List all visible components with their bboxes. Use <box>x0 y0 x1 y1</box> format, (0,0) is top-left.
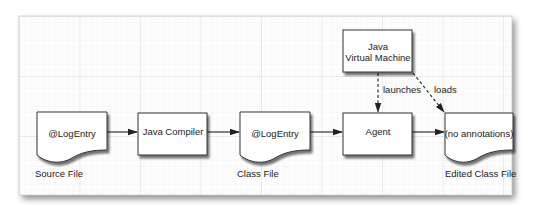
edited-class-file-text: (no annotations) <box>445 128 514 139</box>
class-file-caption: Class File <box>237 168 279 179</box>
node-edited-class-file: (no annotations) Edited Class File <box>445 113 517 179</box>
edited-class-file-caption: Edited Class File <box>445 168 516 179</box>
class-file-text: @LogEntry <box>251 128 299 139</box>
diagram-canvas: launches loads @LogEntry Source File Jav… <box>0 0 554 207</box>
edge-label-launches: launches <box>383 84 421 95</box>
edge-label-loads: loads <box>434 84 457 95</box>
source-file-caption: Source File <box>35 168 83 179</box>
java-compiler-text: Java Compiler <box>143 126 204 137</box>
agent-text: Agent <box>366 126 391 137</box>
jvm-text-line2: Virtual Machine <box>345 52 410 63</box>
source-file-text: @LogEntry <box>48 128 96 139</box>
diagram-svg: launches loads @LogEntry Source File Jav… <box>0 0 554 207</box>
node-agent: Agent <box>343 113 412 155</box>
jvm-text-line1: Java <box>368 41 389 52</box>
node-java-compiler: Java Compiler <box>138 113 207 155</box>
node-jvm: Java Virtual Machine <box>343 30 412 72</box>
